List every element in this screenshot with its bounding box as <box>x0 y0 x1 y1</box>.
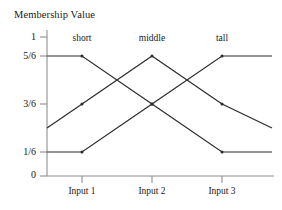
chart-plot-area <box>0 0 282 210</box>
chart-figure: Membership Value 1 5/6 3/6 1/6 0 Input 1… <box>0 0 282 210</box>
series-tall-marker <box>81 151 84 154</box>
series-short-marker <box>81 55 84 58</box>
x-axis-group <box>47 176 274 183</box>
series-short-marker <box>221 151 224 154</box>
series-middle-marker <box>151 55 154 58</box>
series-tall-marker <box>151 103 154 106</box>
y-axis-group <box>40 30 47 176</box>
series-middle-group <box>47 55 272 129</box>
series-tall-marker <box>221 55 224 58</box>
series-middle-marker <box>221 103 224 106</box>
series-middle-marker <box>81 103 84 106</box>
series-middle-line <box>47 56 272 128</box>
